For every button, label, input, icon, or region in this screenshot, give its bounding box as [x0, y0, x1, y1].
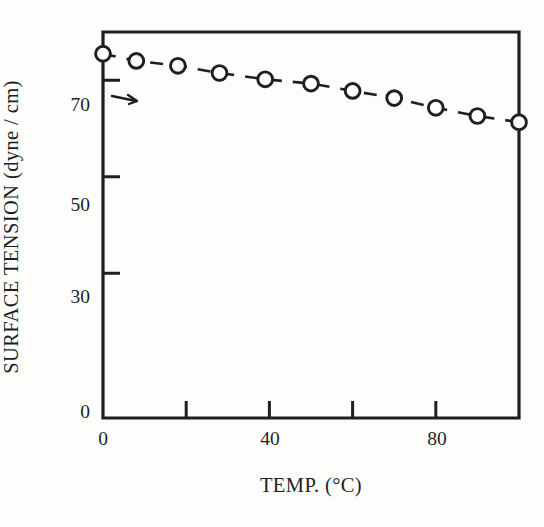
plot-area — [0, 0, 544, 527]
data-point-10 — [512, 115, 527, 130]
data-point-1 — [129, 54, 144, 69]
data-point-0 — [96, 46, 111, 61]
figure-container: SURFACE TENSION (dyne / cm) TEMP. (°C) 7… — [0, 0, 544, 527]
data-markers — [96, 46, 527, 129]
data-point-6 — [345, 84, 360, 99]
x-tick-marks — [186, 401, 436, 418]
y-tick-marks — [103, 80, 120, 273]
data-point-5 — [304, 76, 319, 91]
data-point-2 — [171, 58, 186, 73]
arrow-annotation — [112, 95, 137, 104]
data-point-7 — [387, 91, 402, 106]
data-point-8 — [428, 100, 443, 115]
data-point-9 — [470, 109, 485, 124]
data-point-3 — [212, 66, 227, 81]
data-point-4 — [258, 72, 273, 87]
